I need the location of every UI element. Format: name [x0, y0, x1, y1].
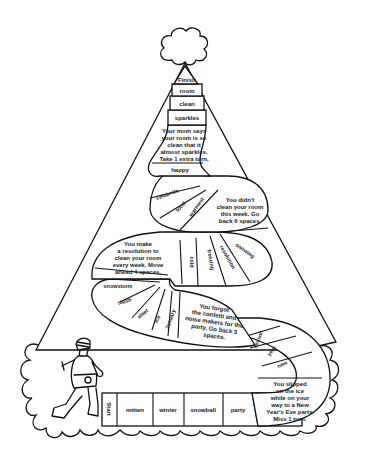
space-room: room	[180, 88, 195, 94]
space-penalty-line: You slipped	[273, 381, 307, 387]
space-bonus-line: clean that it	[167, 142, 200, 148]
space-sparkles: sparkles	[175, 115, 200, 121]
space-bonus-line: your room is so	[161, 135, 206, 141]
space-bonus-line: ahead 4 spaces.	[115, 269, 161, 275]
space-happy: happy	[171, 167, 189, 173]
space-party: party	[231, 407, 246, 413]
space-finish: Finish	[178, 77, 196, 83]
space-penalty-line: Year's Eve party.	[266, 409, 314, 415]
space-bonus-line: You make	[124, 241, 153, 247]
space-penalty-line: back 6 spaces.	[219, 218, 262, 224]
space-bonus-line: every week. Move	[113, 262, 164, 268]
pom-pom-icon	[161, 28, 208, 65]
space-mitten: mitten	[126, 407, 144, 413]
space-cold: cold	[189, 256, 195, 267]
space-penalty-line: on the ice	[276, 388, 305, 394]
space-bonus-line: Take 1 extra turn.	[159, 156, 209, 162]
space-penalty-line: this week. Go	[221, 211, 260, 217]
space-start: Start	[106, 402, 112, 416]
space-bonus-line: Your mom says	[162, 128, 207, 134]
space-penalty-line: way to a New	[270, 402, 309, 408]
space-snowball: snowball	[190, 407, 216, 413]
space-bonus-line: a resolution to	[117, 248, 159, 254]
space-snowstorm: snowstorm	[104, 283, 133, 289]
space-bonus-line: clean your room	[115, 255, 162, 261]
space-clean: clean	[179, 101, 195, 107]
space-bonus-line: almost sparkles.	[160, 149, 207, 155]
space-penalty-line: while on your	[270, 395, 310, 401]
space-winter: winter	[158, 407, 177, 413]
game-board: Finish room clean sparkles Your mom says…	[0, 0, 371, 473]
space-penalty-line: You didn't	[226, 197, 255, 203]
space-penalty-line: Miss 1 turn.	[273, 416, 307, 422]
space-penalty-line: clean your room	[217, 204, 264, 210]
